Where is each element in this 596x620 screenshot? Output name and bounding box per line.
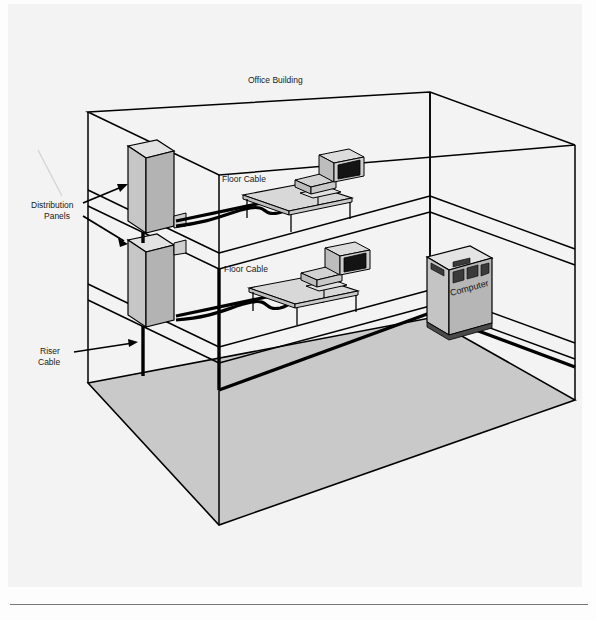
page-root: Office Building	[0, 0, 596, 620]
distribution-panel-upper	[128, 140, 186, 233]
distribution-panel-lower	[128, 234, 186, 327]
workstation-lower	[249, 242, 370, 325]
distribution-panels-label-line1: Distribution	[31, 200, 74, 210]
computer-mainframe: Computer	[427, 246, 492, 340]
distribution-panels-label-line2: Panels	[44, 211, 70, 221]
floor-cable-upper-label: Floor Cable	[222, 174, 266, 184]
riser-cable-label-line1: Riser	[40, 346, 60, 356]
distribution-panels-callout: Distribution Panels	[31, 184, 128, 247]
building-cabling-diagram: Office Building	[0, 0, 596, 620]
distribution-panels-arrow-upper	[83, 184, 128, 203]
diagram-title: Office Building	[248, 75, 303, 85]
footer-rule	[10, 604, 588, 605]
workstation-upper	[243, 149, 364, 232]
scan-artifact	[38, 150, 62, 196]
riser-cable-label-line2: Cable	[38, 357, 60, 367]
distribution-panels-arrow-lower	[83, 216, 128, 247]
floor-cable-lower-label: Floor Cable	[224, 264, 268, 274]
